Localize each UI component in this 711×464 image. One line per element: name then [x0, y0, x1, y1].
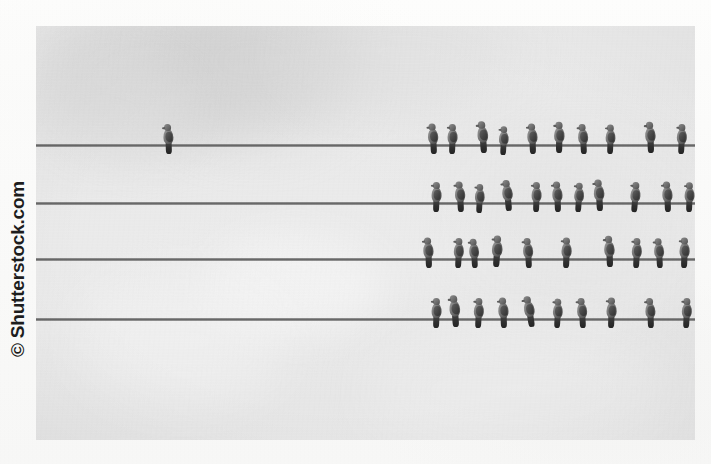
bird — [530, 182, 542, 212]
bird-beak — [631, 240, 634, 242]
bird — [162, 124, 174, 154]
bird-wing — [430, 131, 438, 142]
bird — [628, 182, 642, 213]
bird — [680, 298, 693, 329]
photograph — [36, 26, 695, 440]
bird — [497, 297, 509, 328]
bird — [452, 238, 465, 269]
bird-beak — [576, 301, 579, 303]
cloud — [206, 236, 386, 336]
bird — [521, 238, 534, 269]
wire-3 — [36, 258, 695, 261]
bird — [468, 239, 480, 269]
bird — [653, 238, 665, 268]
bird-wing — [647, 130, 655, 141]
bird-beak — [653, 241, 656, 243]
bird — [572, 183, 585, 213]
bird-wing — [476, 306, 484, 316]
cloud — [286, 26, 526, 112]
bird — [604, 125, 616, 155]
bird — [472, 298, 485, 329]
cloud — [466, 146, 695, 306]
photo-grain-texture — [36, 26, 695, 440]
cloud — [44, 26, 274, 150]
bird-wing — [555, 307, 562, 317]
bird-wing — [579, 306, 587, 316]
bird-wing — [501, 134, 508, 144]
bird-wing — [596, 188, 604, 199]
bird-beak — [473, 300, 476, 302]
bird — [576, 124, 589, 155]
bird — [683, 182, 695, 212]
bird-wing — [479, 129, 487, 140]
bird-wing — [679, 132, 687, 142]
bird-beak — [676, 126, 679, 128]
bird — [592, 179, 605, 211]
bird-beak — [577, 127, 580, 129]
bird-beak — [426, 126, 429, 128]
bird-beak — [522, 241, 525, 243]
bird-wing — [500, 305, 507, 315]
bird — [644, 122, 657, 154]
bird-beak — [592, 182, 595, 184]
bird-beak — [474, 186, 477, 188]
cloud — [76, 276, 286, 406]
bird-beak — [526, 126, 529, 128]
bird — [490, 235, 504, 267]
bird-beak — [531, 184, 534, 186]
bird-wing — [607, 133, 614, 143]
bird — [430, 298, 442, 328]
bird-wing — [632, 190, 640, 201]
bird-beak — [679, 239, 682, 241]
bird — [446, 124, 458, 154]
bird-beak — [551, 184, 554, 186]
bird — [551, 299, 563, 329]
bird-beak — [603, 239, 606, 241]
bird-wing — [656, 246, 663, 256]
bird-wing — [608, 305, 615, 315]
bird-wing — [451, 303, 459, 314]
bird — [430, 182, 442, 212]
bird-wing — [606, 244, 614, 255]
bird-beak — [553, 124, 556, 126]
wire-4 — [36, 318, 695, 321]
bird-wing — [433, 306, 440, 316]
bird-wing — [494, 244, 502, 255]
bird-beak — [453, 184, 456, 186]
bird — [497, 126, 509, 155]
bird — [630, 238, 643, 269]
bird — [560, 237, 572, 268]
bird-wing — [681, 245, 688, 255]
bird — [453, 181, 466, 212]
cloud — [366, 326, 666, 440]
bird-wing — [686, 190, 693, 200]
bird-beak — [162, 127, 165, 129]
bird-wing — [525, 246, 533, 256]
bird — [603, 236, 616, 268]
bird-wing — [580, 132, 588, 142]
bird-beak — [661, 184, 664, 186]
bird-wing — [533, 190, 540, 200]
bird-wing — [504, 188, 512, 199]
bird-beak — [476, 124, 479, 126]
bird — [678, 237, 690, 268]
cloud — [154, 26, 354, 136]
bird-beak — [447, 126, 450, 128]
bird — [551, 181, 563, 212]
bird-wing — [165, 132, 172, 142]
bird — [473, 183, 485, 213]
bird — [521, 295, 537, 328]
bird-wing — [634, 246, 642, 256]
bird — [426, 123, 439, 154]
bird-beak — [606, 299, 609, 301]
bird — [422, 237, 434, 268]
bird — [661, 181, 673, 212]
bird-beak — [422, 240, 425, 242]
bird-wing — [457, 189, 465, 200]
bird — [605, 297, 617, 328]
bird-wing — [425, 245, 432, 255]
bird-beak — [644, 125, 647, 127]
bird-beak — [499, 128, 502, 130]
bird-wing — [647, 306, 654, 316]
bird-beak — [681, 300, 684, 302]
